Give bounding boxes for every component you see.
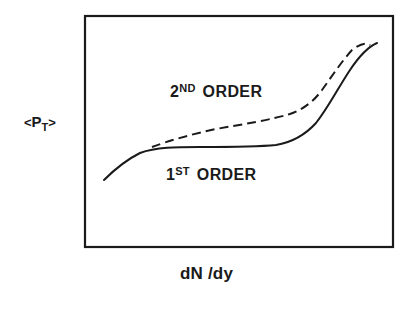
annotation-second-order-word: ORDER	[203, 83, 263, 100]
y-axis-label-open-bracket: <	[24, 115, 32, 130]
annotation-second-order: 2NDORDER	[170, 83, 262, 100]
annotation-first-order-word: ORDER	[197, 166, 257, 183]
y-axis-label: <PT>	[24, 114, 56, 133]
x-axis-label: dN /dy	[0, 264, 413, 284]
annotation-second-order-number: 2	[170, 83, 179, 100]
annotation-first-order: 1STORDER	[166, 166, 257, 183]
y-axis-label-symbol: P	[32, 113, 42, 130]
annotation-first-order-number: 1	[166, 166, 175, 183]
y-axis-label-close-bracket: >	[48, 115, 56, 130]
annotation-first-order-suffix: ST	[175, 165, 189, 177]
annotation-second-order-suffix: ND	[179, 82, 195, 94]
